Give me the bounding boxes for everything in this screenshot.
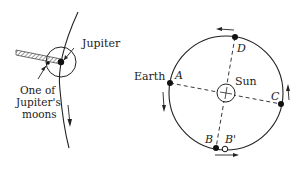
point-b-prime-label: B' xyxy=(224,133,236,146)
moon-label-line2: Jupiter's xyxy=(15,96,61,108)
arrow-bottom-head-icon xyxy=(233,153,239,157)
point-d-label: D xyxy=(236,42,246,55)
diagram-canvas: Jupiter One of Jupiter's moons Sun Earth… xyxy=(0,0,306,169)
arrow-top-head-icon xyxy=(216,27,222,31)
point-a-label: A xyxy=(174,69,183,82)
jupiter-orbit-diagram: Jupiter One of Jupiter's moons xyxy=(15,12,121,148)
direction-arrow-head-icon xyxy=(68,119,73,127)
point-b-dot-icon xyxy=(213,145,219,151)
arrow-left-head-icon xyxy=(162,105,166,112)
point-b-label: B xyxy=(204,133,213,146)
point-c-label: C xyxy=(271,90,280,103)
moon-label-line3: moons xyxy=(22,108,57,120)
point-b-prime-dot-icon xyxy=(222,146,228,152)
point-a-earth-dot-icon xyxy=(167,80,173,86)
moon-label-line1: One of xyxy=(20,84,56,96)
jupiter-label: Jupiter xyxy=(81,37,121,50)
earth-label: Earth xyxy=(134,70,165,83)
arrow-right-head-icon xyxy=(286,84,290,91)
jupiter-shadow-icon xyxy=(16,50,61,64)
point-d-dot-icon xyxy=(232,34,238,40)
moon-dot-icon xyxy=(46,61,50,65)
sun-label: Sun xyxy=(235,75,257,88)
earth-orbit-diagram: Sun Earth A D C B B' xyxy=(134,27,290,157)
jupiter-dot-icon xyxy=(58,59,64,65)
moon-pointer-arrow-icon xyxy=(41,66,46,71)
jupiter-orbit-path xyxy=(59,12,78,148)
